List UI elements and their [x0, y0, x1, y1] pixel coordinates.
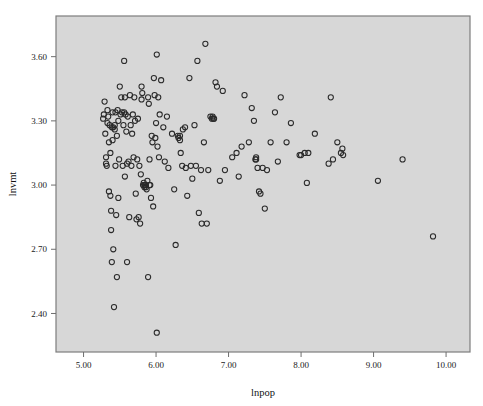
x-axis-tick-label: 5.00	[76, 360, 92, 370]
y-axis-tick-label: 2.40	[31, 309, 47, 319]
scatter-plot-figure: 5.006.007.008.009.0010.00 2.402.703.003.…	[0, 0, 483, 406]
chart-canvas: 5.006.007.008.009.0010.00 2.402.703.003.…	[0, 0, 483, 406]
y-axis-title: lnvmt	[7, 172, 18, 197]
x-axis-title: lnpop	[251, 387, 275, 398]
plot-area-background	[56, 16, 470, 352]
x-axis-tick-label: 9.00	[366, 360, 382, 370]
y-axis-tick-label: 3.30	[31, 116, 47, 126]
x-axis-tick-label: 8.00	[293, 360, 309, 370]
y-axis-tick-label: 3.60	[31, 52, 47, 62]
x-axis-tick-label: 6.00	[148, 360, 164, 370]
x-axis-tick-label: 10.00	[436, 360, 457, 370]
y-axis-tick-label: 3.00	[31, 180, 47, 190]
y-axis-tick-label: 2.70	[31, 244, 47, 254]
x-axis-tick-label: 7.00	[221, 360, 237, 370]
